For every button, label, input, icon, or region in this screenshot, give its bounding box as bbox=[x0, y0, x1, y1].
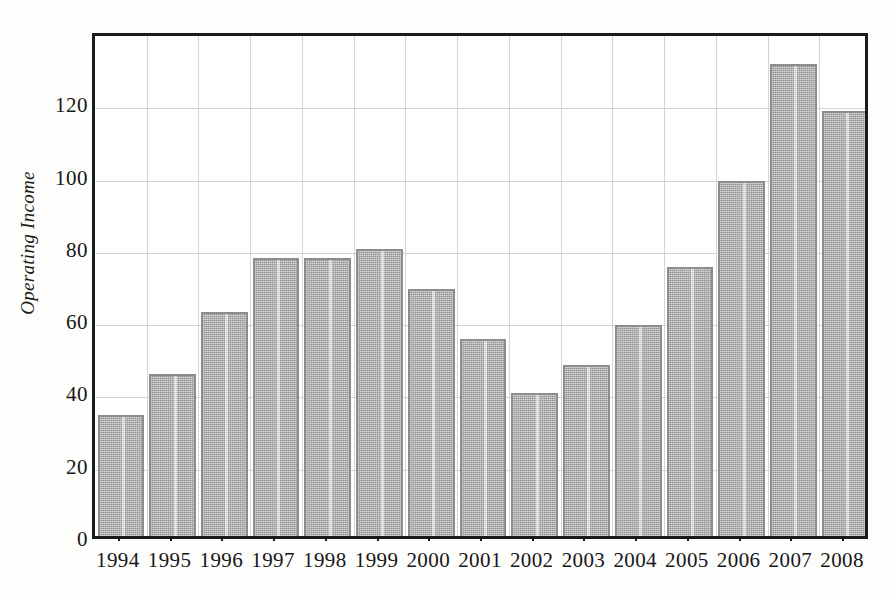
x-axis-tick-mark bbox=[739, 536, 741, 541]
x-axis-tick-label: 1996 bbox=[200, 548, 244, 573]
bar bbox=[304, 258, 351, 536]
bar bbox=[718, 181, 765, 536]
x-axis-tick-label: 1995 bbox=[148, 548, 192, 573]
bar-highlight bbox=[225, 314, 228, 536]
y-axis-tick-label: 100 bbox=[40, 165, 88, 190]
x-axis-tick-label: 2008 bbox=[820, 548, 864, 573]
y-axis-tick-label-group: 020406080100120 bbox=[40, 0, 88, 595]
x-axis-tick-mark bbox=[635, 536, 637, 541]
y-axis-title: Operating Income bbox=[17, 143, 39, 343]
bar-highlight bbox=[794, 66, 797, 536]
x-axis-tick-label: 2000 bbox=[406, 548, 450, 573]
x-axis-tick-label: 1997 bbox=[251, 548, 295, 573]
x-axis-tick-mark bbox=[583, 536, 585, 541]
bar bbox=[408, 289, 455, 536]
x-axis-tick-mark bbox=[221, 536, 223, 541]
y-axis-tick-label: 20 bbox=[40, 454, 88, 479]
x-axis-tick-mark bbox=[273, 536, 275, 541]
bar bbox=[667, 267, 714, 536]
bar-highlight bbox=[536, 395, 539, 536]
bar-highlight bbox=[277, 260, 280, 536]
x-axis-tick-label: 2004 bbox=[613, 548, 657, 573]
bar-highlight bbox=[743, 183, 746, 536]
y-axis-tick-label: 80 bbox=[40, 237, 88, 262]
y-axis-tick-label: 0 bbox=[40, 527, 88, 552]
bar bbox=[563, 365, 610, 536]
bar bbox=[615, 325, 662, 536]
x-axis-tick-mark bbox=[687, 536, 689, 541]
bar-highlight bbox=[639, 327, 642, 536]
x-axis-tick-label-group: 1994199519961997199819992000200120022003… bbox=[92, 548, 868, 582]
x-axis-tick-label: 2003 bbox=[562, 548, 606, 573]
x-axis-tick-marks bbox=[92, 536, 868, 542]
bar bbox=[511, 393, 558, 536]
x-axis-tick-label: 2005 bbox=[665, 548, 709, 573]
bar-highlight bbox=[329, 260, 332, 536]
x-axis-tick-mark bbox=[842, 536, 844, 541]
bar bbox=[98, 415, 145, 536]
bar bbox=[356, 249, 403, 536]
bar bbox=[822, 111, 868, 536]
x-axis-tick-label: 1999 bbox=[355, 548, 399, 573]
bar bbox=[460, 339, 507, 536]
x-axis-tick-label: 2006 bbox=[717, 548, 761, 573]
x-axis-tick-mark bbox=[532, 536, 534, 541]
bar-highlight bbox=[432, 291, 435, 536]
y-axis-tick-label: 60 bbox=[40, 310, 88, 335]
bar-highlight bbox=[381, 251, 384, 536]
x-axis-tick-mark bbox=[170, 536, 172, 541]
bar bbox=[770, 64, 817, 536]
plot-area bbox=[92, 33, 868, 539]
x-axis-tick-label: 2007 bbox=[769, 548, 813, 573]
x-axis-tick-label: 2001 bbox=[458, 548, 502, 573]
y-axis-tick-label: 40 bbox=[40, 382, 88, 407]
x-axis-tick-mark bbox=[118, 536, 120, 541]
bar-highlight bbox=[122, 417, 125, 536]
x-axis-tick-label: 1998 bbox=[303, 548, 347, 573]
bar bbox=[201, 312, 248, 536]
bar-highlight bbox=[691, 269, 694, 536]
bar-highlight bbox=[846, 113, 849, 536]
bar-chart-figure: Operating Income 020406080100120 1994199… bbox=[0, 0, 894, 595]
x-axis-tick-mark bbox=[428, 536, 430, 541]
x-axis-tick-mark bbox=[325, 536, 327, 541]
x-axis-tick-mark bbox=[377, 536, 379, 541]
bar bbox=[149, 374, 196, 536]
x-axis-tick-label: 1994 bbox=[96, 548, 140, 573]
bar-highlight bbox=[174, 376, 177, 536]
x-axis-tick-mark bbox=[480, 536, 482, 541]
bar-highlight bbox=[484, 341, 487, 536]
bar bbox=[253, 258, 300, 536]
x-axis-tick-label: 2002 bbox=[510, 548, 554, 573]
x-axis-tick-mark bbox=[790, 536, 792, 541]
bar-highlight bbox=[587, 367, 590, 536]
bar-series bbox=[95, 36, 865, 536]
y-axis-tick-label: 120 bbox=[40, 93, 88, 118]
